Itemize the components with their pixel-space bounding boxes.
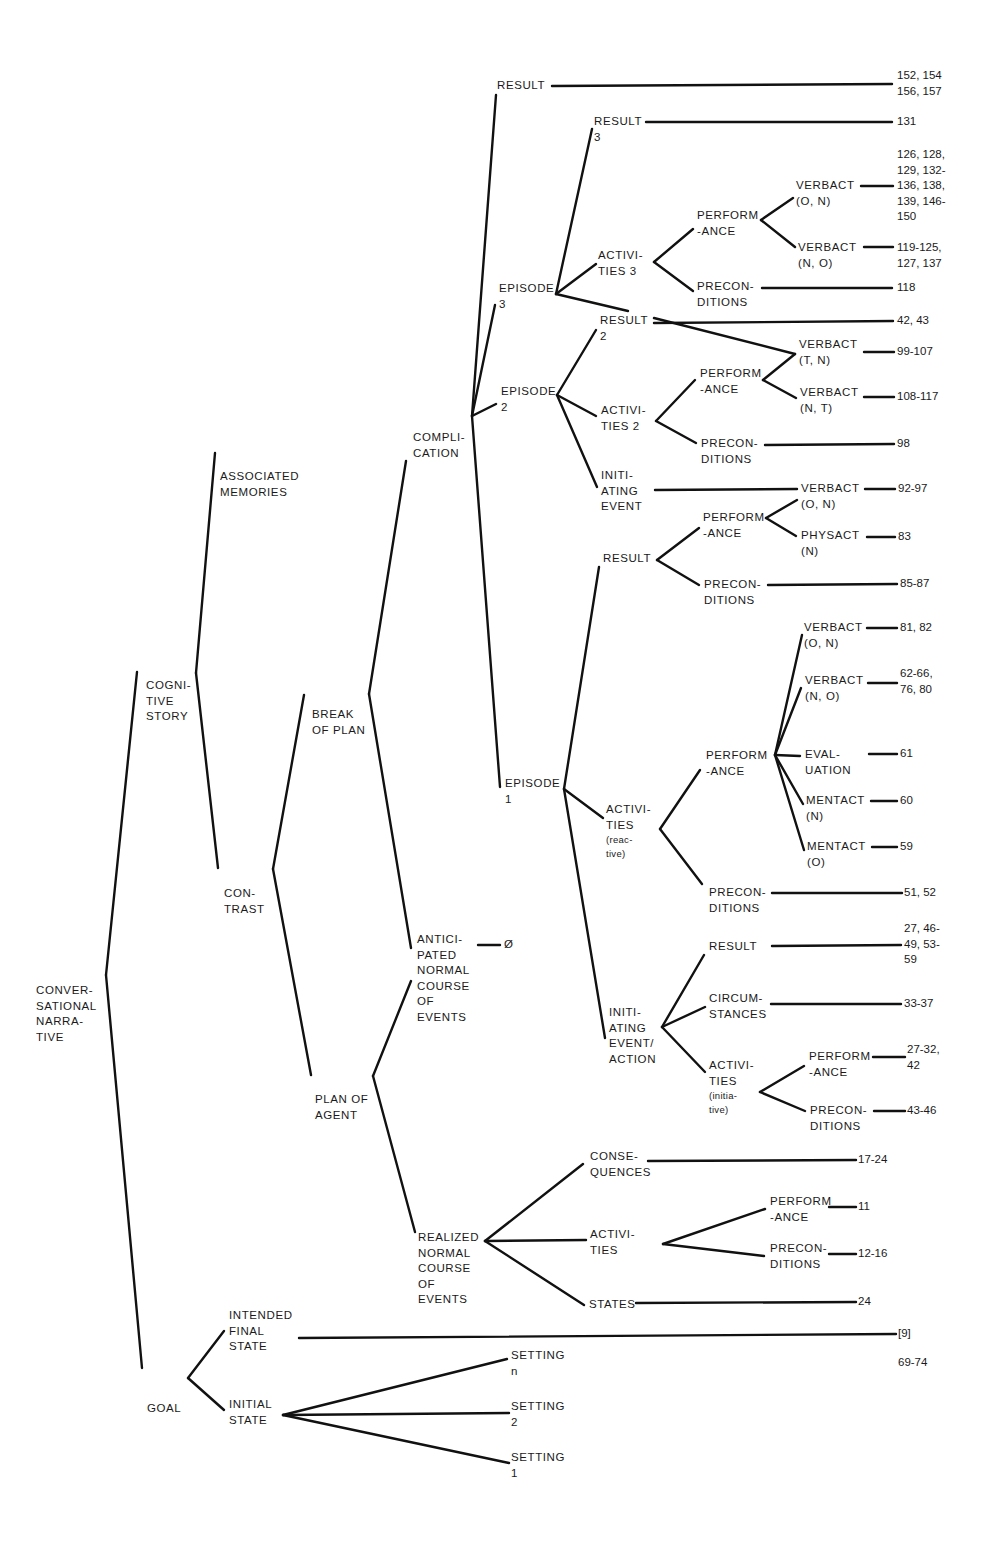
edge bbox=[761, 198, 793, 220]
ref-result-top: 152, 154156, 157 bbox=[897, 68, 942, 99]
edge bbox=[760, 1066, 804, 1092]
node-e2-verbact-nt: VERBACT(N, T) bbox=[800, 385, 859, 416]
edge bbox=[654, 262, 693, 291]
ref-e2-verbact-nt: 108-117 bbox=[897, 389, 938, 405]
ref-rn-preconditions: 12-16 bbox=[858, 1246, 887, 1262]
ref-e1-init-circumstances: 33-37 bbox=[904, 996, 933, 1012]
node-e2-performance: PERFORM-ANCE bbox=[700, 366, 762, 397]
edge bbox=[654, 321, 893, 323]
edge bbox=[273, 695, 304, 869]
node-e3-verbact-no: VERBACT(N, O) bbox=[798, 240, 857, 271]
ref-e1-verbact-on: 81, 82 bbox=[900, 620, 932, 636]
node-setting-2: SETTING2 bbox=[511, 1399, 565, 1430]
node-rn-states: STATES bbox=[589, 1297, 636, 1313]
edge bbox=[106, 672, 137, 975]
node-e1-result: RESULT bbox=[603, 551, 651, 567]
ref-initial-state: 69-74 bbox=[898, 1355, 927, 1371]
node-activities-2: ACTIVI-TIES 2 bbox=[601, 403, 646, 434]
node-e1-verbact-on: VERBACT(O, N) bbox=[804, 620, 863, 651]
edge bbox=[775, 755, 800, 756]
node-rn-activities: ACTIVI-TIES bbox=[590, 1227, 635, 1258]
node-e1-init-performance: PERFORM-ANCE bbox=[809, 1049, 871, 1080]
edge bbox=[660, 770, 700, 829]
node-setting-1: SETTING1 bbox=[511, 1450, 565, 1481]
edge bbox=[196, 673, 218, 868]
edge bbox=[472, 95, 496, 416]
edge bbox=[657, 528, 699, 560]
ref-e1-verbact-no: 62-66,76, 80 bbox=[900, 666, 933, 697]
edge bbox=[556, 294, 628, 311]
node-plan-of-agent: PLAN OFAGENT bbox=[315, 1061, 368, 1139]
ref-e3-verbact-on: 126, 128,129, 132-136, 138,139, 146-150 bbox=[897, 147, 946, 225]
node-e1-res-preconditions: PRECON-DITIONS bbox=[704, 577, 761, 608]
edge bbox=[766, 500, 797, 518]
ref-e2-init-verbact: 92-97 bbox=[898, 481, 927, 497]
ref-e2-verbact-tn: 99-107 bbox=[897, 344, 933, 360]
edge bbox=[196, 453, 215, 673]
node-e3-preconditions: PRECON-DITIONS bbox=[697, 279, 754, 310]
edge bbox=[656, 380, 695, 421]
edge bbox=[663, 1209, 765, 1244]
edge bbox=[564, 789, 605, 1038]
node-e3-verbact-on: VERBACT(O, N) bbox=[796, 178, 855, 209]
edge bbox=[283, 1415, 509, 1463]
ref-rn-states: 24 bbox=[858, 1294, 871, 1310]
ref-e1-init-preconditions: 43-46 bbox=[907, 1103, 936, 1119]
edge bbox=[660, 829, 702, 884]
node-e1-res-physact: PHYSACT(N) bbox=[801, 528, 860, 559]
edge bbox=[283, 1413, 509, 1415]
node-e1-init-activities-initiative: ACTIVI-TIES(initia-tive) bbox=[709, 1058, 754, 1117]
edge bbox=[557, 330, 596, 395]
node-e1-activities-reactive: ACTIVI-TIES(reac-tive) bbox=[606, 802, 651, 861]
node-intended-final-state: INTENDEDFINALSTATE bbox=[229, 1308, 293, 1355]
ref-rn-consequences: 17-24 bbox=[858, 1152, 887, 1168]
ref-e3-preconditions: 118 bbox=[897, 280, 915, 296]
edge bbox=[766, 518, 796, 536]
ref-rn-performance: 11 bbox=[858, 1199, 870, 1215]
edge bbox=[768, 584, 897, 585]
node-episode-3: EPISODE3 bbox=[499, 281, 554, 312]
node-break-of-plan: BREAKOF PLAN bbox=[312, 676, 365, 754]
edge bbox=[656, 421, 696, 443]
edge bbox=[654, 229, 693, 262]
node-anticipated-normal-course: ANTICI-PATEDNORMALCOURSEOFEVENTS bbox=[417, 901, 470, 1041]
edge bbox=[299, 1334, 896, 1338]
node-e1-res-performance: PERFORM-ANCE bbox=[703, 510, 765, 541]
node-realized-normal-course: REALIZEDNORMALCOURSEOFEVENTS bbox=[418, 1199, 479, 1323]
edge bbox=[760, 1092, 805, 1111]
ref-e1-mentact-o: 59 bbox=[900, 839, 913, 855]
edge bbox=[564, 567, 599, 789]
ref-intended-final-state: [9] bbox=[898, 1326, 911, 1342]
ref-e1-mentact-n: 60 bbox=[900, 793, 913, 809]
edge bbox=[657, 560, 699, 585]
node-e2-preconditions: PRECON-DITIONS bbox=[701, 436, 758, 467]
node-e1-init-circumstances: CIRCUM-STANCES bbox=[709, 991, 767, 1022]
edge bbox=[636, 1302, 856, 1303]
node-e2-verbact-tn: VERBACT(T, N) bbox=[799, 337, 858, 368]
edge bbox=[557, 395, 597, 487]
node-setting-n: SETTINGn bbox=[511, 1348, 565, 1379]
edge bbox=[485, 1241, 584, 1305]
edge bbox=[369, 694, 411, 948]
ref-result-3: 131 bbox=[897, 114, 916, 130]
node-e3-performance: PERFORM-ANCE bbox=[697, 208, 759, 239]
edge bbox=[763, 380, 796, 398]
edge bbox=[369, 461, 406, 694]
edge bbox=[188, 1331, 224, 1378]
edge bbox=[283, 1359, 507, 1415]
node-e1-init-preconditions: PRECON-DITIONS bbox=[810, 1103, 867, 1134]
node-e2-init-verbact: VERBACT(O, N) bbox=[801, 481, 860, 512]
edge bbox=[552, 84, 892, 86]
edge bbox=[472, 404, 496, 416]
node-e1-act-preconditions: PRECON-DITIONS bbox=[709, 885, 766, 916]
edge bbox=[763, 354, 795, 380]
node-initial-state: INITIALSTATE bbox=[229, 1397, 272, 1428]
ref-e1-init-performance: 27-32,42 bbox=[907, 1042, 940, 1073]
edge bbox=[188, 1378, 224, 1410]
ref-e1-res-physact: 83 bbox=[898, 529, 911, 545]
edge bbox=[373, 981, 411, 1076]
edge bbox=[655, 489, 797, 490]
node-complication: COMPLI-CATION bbox=[413, 399, 465, 477]
node-e1-initiating-event-action: INITI-ATINGEVENT/ACTION bbox=[609, 1005, 656, 1067]
edge bbox=[273, 869, 311, 1075]
